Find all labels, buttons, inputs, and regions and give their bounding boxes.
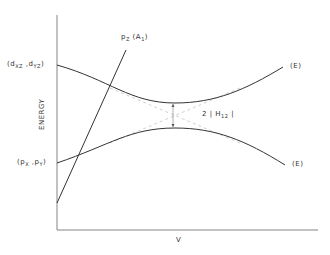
energy-diagram xyxy=(0,0,330,255)
gap-arrow-head-down xyxy=(172,124,175,127)
lower-curve xyxy=(57,128,285,165)
gap-label: 2 | H12 | xyxy=(202,110,234,119)
v-axis-label: V xyxy=(176,236,181,244)
pz-line xyxy=(57,50,126,203)
upper-e-label: (E) xyxy=(290,62,301,70)
lower-e-label: (E) xyxy=(292,160,303,168)
upper-curve xyxy=(57,65,283,103)
pz-a1-label: pZ (A1) xyxy=(121,33,148,42)
px-py-label: (pX ,pY) xyxy=(17,158,46,167)
gap-arrow-head-up xyxy=(172,104,175,107)
energy-axis-label: ENERGY xyxy=(38,99,46,130)
dxz-dyz-label: (dXZ ,dYZ) xyxy=(7,60,44,69)
